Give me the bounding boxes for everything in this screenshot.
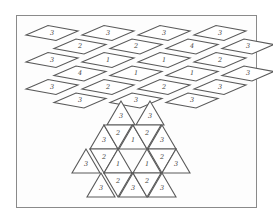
tile-label: 3 [78,96,82,104]
rhombus-tile: 2 [82,80,134,95]
tiling-diagram: 33332243311241133223333 3332123321123323… [0,0,273,223]
tile-label: 3 [102,136,106,144]
tile-label: 3 [218,83,222,91]
tile-label: 2 [217,56,222,64]
tile-label: 2 [77,42,82,50]
tile-label: 3 [99,184,103,192]
rhombus-tile: 3 [222,66,273,81]
rhombus-tile: 4 [54,66,106,81]
rhombus-tiling: 33332243311241133223333 [26,26,273,109]
tile-label: 3 [119,112,123,120]
rhombus-tile: 3 [222,39,273,54]
rhombus-tile: 2 [138,80,190,95]
rhombus-tile: 2 [194,53,246,68]
rhombus-tile: 3 [166,93,218,108]
rhombus-tile: 1 [138,53,190,68]
tile-label: 1 [131,136,135,144]
tile-label: 3 [50,29,54,37]
tile-label: 2 [159,153,164,161]
tile-label: 2 [101,153,106,161]
tile-label: 1 [190,69,194,77]
tile-label: 3 [131,184,135,192]
rhombus-tile: 2 [110,39,162,54]
rhombus-tile: 2 [54,39,106,54]
rhombus-tile: 1 [110,66,162,81]
tile-label: 1 [162,56,166,64]
rhombus-tile: 3 [54,93,106,108]
tile-label: 3 [134,96,138,104]
tile-label: 2 [115,177,120,185]
tile-label: 3 [174,160,178,168]
tile-label: 2 [161,83,166,91]
tile-label: 3 [190,96,194,104]
tile-label: 3 [246,42,250,50]
rhombus-tile: 3 [194,80,246,95]
tile-label: 3 [160,136,164,144]
tile-label: 3 [218,29,222,37]
tile-label: 3 [160,184,164,192]
tile-label: 3 [84,160,88,168]
tile-label: 1 [145,160,149,168]
tile-label: 1 [134,69,138,77]
rhombus-tile: 1 [82,53,134,68]
tile-label: 2 [133,42,138,50]
tile-label: 2 [144,129,149,137]
triangle-tiling: 333212332112332323 [72,101,190,197]
rhombus-tile: 4 [166,39,218,54]
tile-label: 3 [50,83,54,91]
rhombus-tile: 3 [82,26,134,41]
tile-label: 4 [77,69,82,77]
tile-label: 3 [162,29,166,37]
tile-label: 1 [106,56,110,64]
rhombus-tile: 3 [26,80,78,95]
tile-label: 3 [106,29,110,37]
tile-label: 2 [144,177,149,185]
tile-label: 3 [246,69,250,77]
rhombus-tile: 1 [166,66,218,81]
tile-label: 3 [148,112,152,120]
tile-label: 2 [105,83,110,91]
tile-label: 3 [50,56,54,64]
tile-label: 2 [115,129,120,137]
rhombus-tile: 3 [194,26,246,41]
tile-label: 1 [116,160,120,168]
rhombus-tile: 3 [26,53,78,68]
rhombus-tile: 3 [26,26,78,41]
rhombus-tile: 3 [138,26,190,41]
tile-label: 4 [189,42,194,50]
